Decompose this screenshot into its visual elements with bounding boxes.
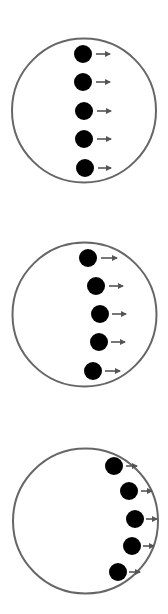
particle-dot (90, 333, 108, 351)
particle-dot (74, 45, 92, 63)
panel-1 (12, 39, 156, 183)
particle-dot (76, 159, 94, 177)
particle-dot (74, 73, 92, 91)
particle-dot (91, 305, 109, 323)
particle-dot (126, 510, 144, 528)
particle-dot (109, 563, 127, 581)
particle-dot (105, 457, 123, 475)
particle-dot (79, 249, 97, 267)
particle-dot (123, 537, 141, 555)
particle-dot (75, 130, 93, 148)
particle-dot (87, 277, 105, 295)
particle-dot (75, 102, 93, 120)
particle-dot (120, 482, 138, 500)
panel-3 (13, 449, 158, 594)
diagram-canvas (0, 0, 168, 614)
panel-2 (13, 243, 157, 387)
particle-dot (84, 362, 102, 380)
